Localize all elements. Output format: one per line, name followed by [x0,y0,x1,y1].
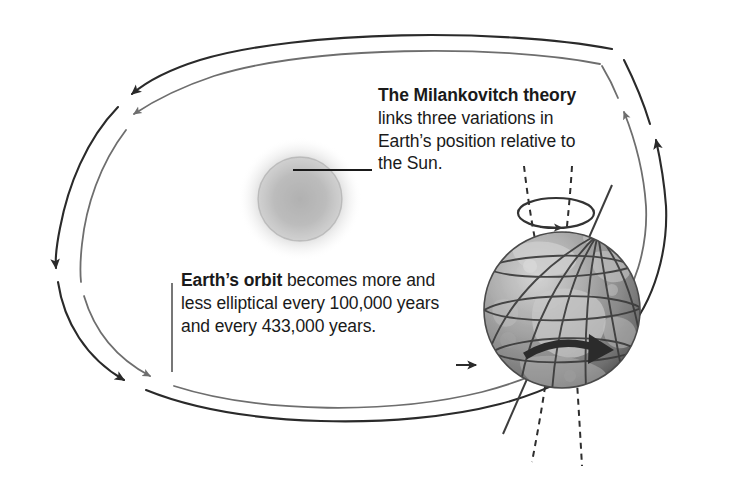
callout-theory-lead: The Milankovitch theory [378,85,576,105]
milankovitch-diagram: The Milankovitch theory links three vari… [0,0,741,479]
callout-milankovitch-theory: The Milankovitch theory links three vari… [378,84,593,175]
earth-globe [456,166,641,466]
diagram-graphics [0,0,741,479]
callout-theory-body: links three variations in Earth’s positi… [378,108,575,174]
callout-orbit-lead: Earth’s orbit [181,270,282,290]
sun [238,137,362,261]
callout-earths-orbit: Earth’s orbit becomes more and less elli… [181,269,453,337]
